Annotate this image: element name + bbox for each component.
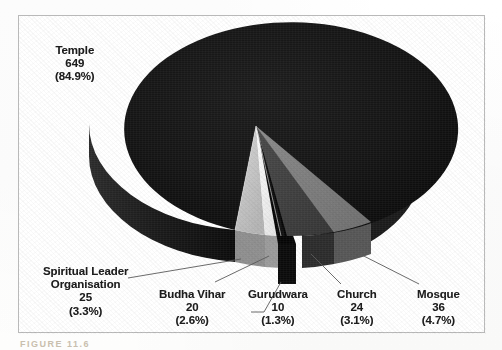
label-line-value: 24	[337, 301, 377, 314]
label-line-value: 10	[248, 301, 308, 314]
label-line-percent: (3.1%)	[337, 314, 377, 327]
slice-label-spiritual-leader-organisation: Spiritual Leader Organisation 25 (3.3%)	[43, 265, 128, 318]
label-line-percent: (2.6%)	[159, 314, 225, 327]
label-line-value: 20	[159, 301, 225, 314]
figure-root: Temple 649 (84.9%) Spiritual Leader Orga…	[0, 0, 502, 350]
slice-label-temple: Temple 649 (84.9%)	[55, 44, 95, 84]
label-line-value: 36	[417, 301, 460, 314]
leader-line-spiritual	[128, 259, 241, 278]
label-line-name2: Organisation	[43, 278, 128, 291]
label-line-name: Budha Vihar	[159, 288, 225, 301]
pie-chart: Temple 649 (84.9%) Spiritual Leader Orga…	[19, 16, 486, 334]
label-line-name: Church	[337, 288, 377, 301]
slice-label-mosque: Mosque 36 (4.7%)	[417, 288, 460, 328]
label-line-value: 649	[55, 57, 95, 70]
leader-line-church	[311, 254, 341, 284]
label-line-name: Temple	[55, 44, 95, 57]
slice-label-church: Church 24 (3.1%)	[337, 288, 377, 328]
label-line-percent: (3.3%)	[43, 305, 128, 318]
leader-line-budha	[215, 256, 269, 282]
label-line-value: 25	[43, 291, 128, 304]
chart-frame: Temple 649 (84.9%) Spiritual Leader Orga…	[18, 15, 485, 333]
figure-caption: FIGURE 11.6	[20, 339, 90, 349]
label-line-percent: (4.7%)	[417, 314, 460, 327]
label-line-name: Mosque	[417, 288, 460, 301]
label-line-name1: Spiritual Leader	[43, 265, 128, 278]
label-line-percent: (1.3%)	[248, 314, 308, 327]
slice-label-gurudwara: Gurudwara 10 (1.3%)	[248, 288, 308, 328]
label-line-percent: (84.9%)	[55, 70, 95, 83]
slice-label-budha-vihar: Budha Vihar 20 (2.6%)	[159, 288, 225, 328]
leader-line-mosque	[348, 248, 419, 284]
label-line-name: Gurudwara	[248, 288, 308, 301]
